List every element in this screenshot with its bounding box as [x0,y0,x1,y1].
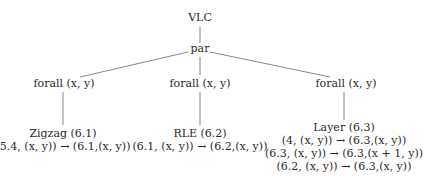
node-vlc: VLC [188,11,212,24]
rule-rle-1: (6.1, (x, y)) → (6.2,(x, y)) [133,140,268,153]
node-rle: RLE (6.2) [173,127,226,140]
node-forall-1: forall (x, y) [33,77,94,90]
rule-zigzag-1: (5.4, (x, y)) → (6.1,(x, y)) [0,140,130,153]
node-layer: Layer (6.3) [313,121,374,134]
diagram: VLC par forall (x, y) forall (x, y) fora… [0,0,424,177]
rule-layer-3: (6.2, (x, y)) → (6.3,(x, y)) [277,160,412,173]
node-zigzag: Zigzag (6.1) [29,127,96,140]
node-par: par [191,42,210,55]
rule-layer-2: (6.3, (x, y)) → (6.3,(x + 1, y)) [265,147,423,160]
node-forall-3: forall (x, y) [315,77,376,90]
node-forall-2: forall (x, y) [169,77,230,90]
rule-layer-1: (4, (x, y)) → (6.3,(x, y)) [282,134,406,147]
